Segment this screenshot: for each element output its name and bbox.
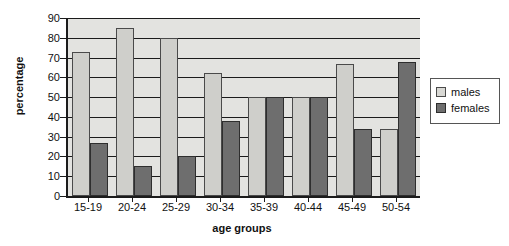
x-axis-tick-mark <box>264 196 265 202</box>
x-axis-tick-label: 45-49 <box>330 201 374 213</box>
bar-group <box>336 18 371 196</box>
plot-area <box>66 18 420 198</box>
bar-males-35-39 <box>248 97 266 196</box>
x-axis-tick-label: 30-34 <box>198 201 242 213</box>
y-axis-tick-label: 70 <box>34 52 60 64</box>
y-axis-tick-mark <box>60 176 66 177</box>
y-axis-tick-mark <box>60 117 66 118</box>
bar-males-15-19 <box>72 52 90 196</box>
x-axis-title: age groups <box>66 222 418 234</box>
bar-group <box>160 18 195 196</box>
bar-group <box>116 18 151 196</box>
x-axis-tick-label: 50-54 <box>374 201 418 213</box>
y-axis-tick-label: 90 <box>34 12 60 24</box>
legend-label: males <box>451 86 480 98</box>
bar-females-45-49 <box>354 129 372 196</box>
y-axis-tick-label: 80 <box>34 32 60 44</box>
legend-swatch-males-icon <box>436 87 446 97</box>
y-axis-tick-mark <box>60 18 66 19</box>
x-axis-tick-label: 25-29 <box>154 201 198 213</box>
x-axis-tick-label: 20-24 <box>110 201 154 213</box>
y-axis-tick-mark <box>60 77 66 78</box>
bar-females-35-39 <box>266 97 284 196</box>
bar-females-15-19 <box>90 143 108 196</box>
y-axis-tick-mark <box>60 156 66 157</box>
y-axis-tick-mark <box>60 97 66 98</box>
bar-males-25-29 <box>160 38 178 196</box>
x-axis-tick-mark <box>308 196 309 202</box>
bar-females-50-54 <box>398 62 416 196</box>
legend-item-males: males <box>436 86 495 98</box>
bar-males-40-44 <box>292 97 310 196</box>
y-axis-tick-mark <box>60 137 66 138</box>
bar-females-30-34 <box>222 121 240 196</box>
x-axis-tick-label: 35-39 <box>242 201 286 213</box>
legend-item-females: females <box>436 102 495 114</box>
legend-swatch-females-icon <box>436 103 446 113</box>
bar-group <box>72 18 107 196</box>
bar-females-20-24 <box>134 166 152 196</box>
x-axis-tick-mark <box>132 196 133 202</box>
bars-layer <box>68 18 420 196</box>
y-axis-tick-label: 30 <box>34 131 60 143</box>
x-axis-tick-mark <box>88 196 89 202</box>
bar-group <box>248 18 283 196</box>
y-axis-tick-label: 40 <box>34 111 60 123</box>
y-axis-tick-labels: 0102030405060708090 <box>26 18 60 196</box>
y-axis-tick-label: 20 <box>34 150 60 162</box>
chart-legend: malesfemales <box>430 78 500 124</box>
bar-chart-figure: percentage 0102030405060708090 15-1920-2… <box>0 0 509 246</box>
y-axis-tick-label: 50 <box>34 91 60 103</box>
bar-group <box>380 18 415 196</box>
x-axis-tick-label: 40-44 <box>286 201 330 213</box>
x-axis-tick-mark <box>352 196 353 202</box>
y-axis-tick-mark <box>60 38 66 39</box>
y-axis-tick-label: 10 <box>34 170 60 182</box>
bar-females-25-29 <box>178 156 196 196</box>
y-axis-title: percentage <box>13 31 25 141</box>
x-axis-tick-label: 15-19 <box>66 201 110 213</box>
x-axis-tick-mark <box>176 196 177 202</box>
legend-label: females <box>451 102 490 114</box>
bar-males-45-49 <box>336 64 354 197</box>
y-axis-tick-mark <box>60 196 66 197</box>
bar-group <box>204 18 239 196</box>
y-axis-tick-label: 0 <box>34 190 60 202</box>
bar-males-30-34 <box>204 73 222 196</box>
bar-group <box>292 18 327 196</box>
bar-females-40-44 <box>310 97 328 196</box>
y-axis-tick-label: 60 <box>34 71 60 83</box>
bar-males-20-24 <box>116 28 134 196</box>
x-axis-tick-mark <box>396 196 397 202</box>
x-axis-tick-mark <box>220 196 221 202</box>
y-axis-tick-mark <box>60 58 66 59</box>
bar-males-50-54 <box>380 129 398 196</box>
